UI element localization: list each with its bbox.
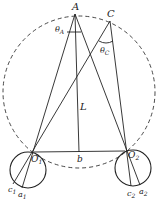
label-a1: a1 <box>18 190 27 200</box>
label-C: C <box>107 8 115 19</box>
label-L: L <box>79 101 87 112</box>
label-c2: c2 <box>127 189 135 199</box>
label-theta-C: θC <box>100 46 110 56</box>
label-A: A <box>71 1 79 12</box>
distance-line-L <box>75 14 79 152</box>
label-O2: O2 <box>128 150 139 161</box>
line-C-to-c1 <box>13 21 110 184</box>
diagram-svg: A C θA θC L b O1 O2 c1 a1 c2 a2 <box>0 0 159 202</box>
baseline-b <box>34 151 125 152</box>
label-b: b <box>77 154 83 164</box>
label-a2: a2 <box>139 187 148 197</box>
binocular-vision-diagram: A C θA θC L b O1 O2 c1 a1 c2 a2 <box>0 0 159 202</box>
label-c1: c1 <box>8 185 16 195</box>
label-theta-A: θA <box>55 25 65 35</box>
line-C-to-c2 <box>110 21 131 186</box>
label-O1: O1 <box>31 154 42 165</box>
theta-C-arc <box>99 41 113 43</box>
